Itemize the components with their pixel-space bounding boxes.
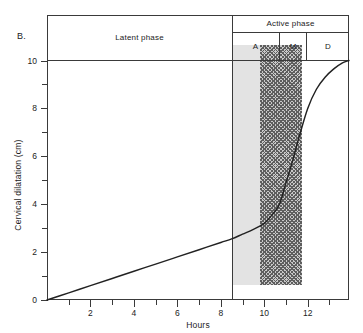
- partogram-figure: B. Latent phase Active phase A M D 02468…: [0, 0, 363, 333]
- x-axis-tick-minor: [156, 300, 157, 305]
- x-axis-tick-label: 12: [298, 308, 318, 318]
- x-axis-tick-minor: [199, 300, 200, 305]
- x-axis-tick-minor: [243, 300, 244, 305]
- y-axis-tick-minor: [42, 180, 48, 181]
- x-axis-tick-label: 6: [167, 308, 187, 318]
- sub-phase-cell-d: D: [307, 33, 349, 60]
- latent-phase-label: Latent phase: [47, 15, 232, 60]
- x-axis-tick-label: 8: [211, 308, 231, 318]
- y-axis-tick-major: [41, 300, 48, 301]
- panel-letter: B.: [17, 31, 26, 41]
- sub-phase-cell-a: A: [232, 33, 280, 60]
- active-phase-header: Active phase: [232, 15, 349, 33]
- x-axis-tick-major: [308, 300, 309, 307]
- x-axis-tick-label: 4: [124, 308, 144, 318]
- reference-line-10cm: [47, 60, 349, 61]
- y-axis-tick-minor: [42, 84, 48, 85]
- x-axis-tick-major: [177, 300, 178, 307]
- x-axis-tick-label: 10: [254, 308, 274, 318]
- shaded-region-d: [260, 45, 302, 285]
- x-axis-tick-major: [134, 300, 135, 307]
- active-phase-label: Active phase: [232, 15, 349, 32]
- y-axis-title: Cervical dilatation (cm): [13, 110, 23, 260]
- y-axis-tick-major: [41, 252, 48, 253]
- y-axis-tick-major: [41, 108, 48, 109]
- y-axis-tick-major: [41, 61, 48, 62]
- y-axis-tick-major: [41, 204, 48, 205]
- x-axis-tick-major: [264, 300, 265, 307]
- y-axis-tick-major: [41, 156, 48, 157]
- y-axis-tick-label: 10: [15, 56, 37, 66]
- x-axis-tick-minor: [112, 300, 113, 305]
- y-axis-tick-minor: [42, 132, 48, 133]
- x-axis-title: Hours: [148, 320, 248, 330]
- y-axis-tick-minor: [42, 228, 48, 229]
- x-axis-tick-minor: [69, 300, 70, 305]
- sub-phase-cell-m: M: [280, 33, 307, 60]
- x-axis-tick-minor: [329, 300, 330, 305]
- x-axis-tick-major: [221, 300, 222, 307]
- x-axis-tick-minor: [286, 300, 287, 305]
- x-axis-tick-major: [90, 300, 91, 307]
- y-axis-tick-minor: [42, 276, 48, 277]
- y-axis-tick-label: 0: [15, 295, 37, 305]
- x-axis-tick-label: 2: [80, 308, 100, 318]
- shaded-region-m: [233, 45, 260, 285]
